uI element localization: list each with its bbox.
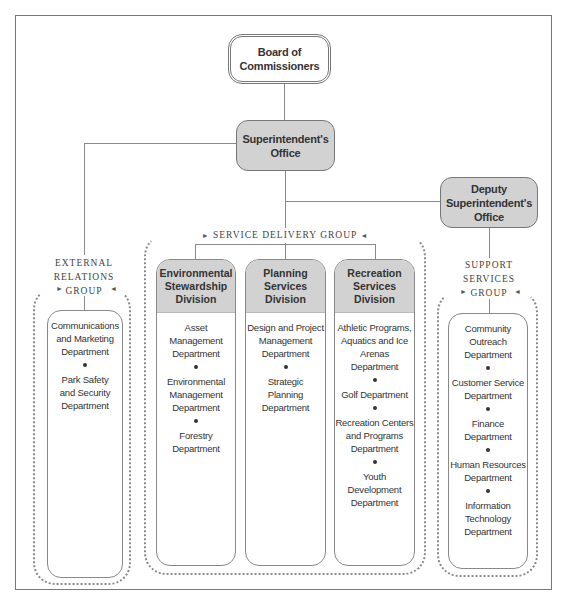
division-title: EnvironmentalStewardshipDivision bbox=[157, 260, 235, 313]
bullet bbox=[284, 365, 288, 369]
bullet bbox=[83, 363, 87, 367]
deputy-label-1: Deputy bbox=[446, 182, 532, 196]
bullet bbox=[486, 366, 490, 370]
support-departments-box: CommunityOutreachDepartment Customer Ser… bbox=[448, 313, 528, 569]
dept-athletic-aquatics-ice: Athletic Programs,Aquatics and IceArenas… bbox=[337, 321, 411, 373]
dept-golf: Golf Department bbox=[341, 388, 408, 401]
bullet bbox=[486, 407, 490, 411]
dept-youth-development: YouthDevelopmentDepartment bbox=[348, 470, 402, 509]
arrow-left-icon: ◄ bbox=[360, 232, 368, 240]
division-recreation-services: RecreationServicesDivision Athletic Prog… bbox=[334, 259, 415, 566]
deputy-label-2: Superintendent's bbox=[446, 196, 532, 210]
dept-communications-marketing: Communicationsand MarketingDepartment bbox=[51, 319, 119, 358]
super-label-1: Superintendent's bbox=[242, 132, 328, 146]
bullet bbox=[194, 419, 198, 423]
dept-environmental-management: EnvironmentalManagementDepartment bbox=[167, 375, 225, 414]
arrow-left-icon: ◄ bbox=[110, 285, 117, 292]
dept-strategic-planning: StrategicPlanningDepartment bbox=[262, 375, 310, 414]
connector-deputy-down bbox=[489, 228, 490, 258]
super-label-2: Office bbox=[242, 146, 328, 160]
dept-community-outreach: CommunityOutreachDepartment bbox=[464, 322, 512, 361]
bullet bbox=[486, 448, 490, 452]
board-label-2: Commissioners bbox=[240, 59, 320, 73]
dept-asset-management: AssetManagementDepartment bbox=[169, 321, 222, 360]
bullet bbox=[373, 460, 377, 464]
dept-design-project-management: Design and ProjectManagementDepartment bbox=[247, 321, 324, 360]
service-delivery-group-label: ► SERVICE DELIVERY GROUP ◄ bbox=[195, 228, 375, 243]
board-label-1: Board of bbox=[240, 45, 320, 59]
division-title: PlanningServicesDivision bbox=[246, 260, 325, 313]
division-environmental-stewardship: EnvironmentalStewardshipDivision AssetMa… bbox=[156, 259, 236, 566]
dept-recreation-centers-programs: Recreation Centersand ProgramsDepartment bbox=[335, 416, 413, 455]
connector-super-down bbox=[285, 171, 286, 228]
division-planning-services: PlanningServicesDivision Design and Proj… bbox=[245, 259, 326, 566]
board-of-commissioners-box: Board of Commissioners bbox=[228, 34, 331, 84]
superintendent-office-box: Superintendent's Office bbox=[236, 120, 335, 171]
dept-forestry: ForestryDepartment bbox=[172, 429, 220, 455]
arrow-right-icon: ► bbox=[202, 232, 210, 240]
connector-board-super bbox=[284, 84, 285, 120]
external-departments-box: Communicationsand MarketingDepartment Pa… bbox=[47, 310, 123, 578]
connector-super-left bbox=[84, 143, 236, 144]
arrow-right-icon: ► bbox=[460, 288, 467, 295]
arrow-right-icon: ► bbox=[56, 285, 63, 292]
division-title: RecreationServicesDivision bbox=[335, 260, 414, 313]
connector-left-down bbox=[84, 143, 85, 255]
deputy-superintendent-office-box: Deputy Superintendent's Office bbox=[440, 177, 538, 228]
dept-finance: Finance Department bbox=[449, 417, 527, 443]
dept-human-resources: Human ResourcesDepartment bbox=[450, 458, 526, 484]
connector-to-deputy bbox=[285, 201, 440, 202]
bullet bbox=[373, 378, 377, 382]
bullet bbox=[486, 489, 490, 493]
dept-customer-service: Customer ServiceDepartment bbox=[452, 376, 524, 402]
bullet bbox=[373, 406, 377, 410]
arrow-left-icon: ◄ bbox=[514, 288, 521, 295]
bullet bbox=[194, 365, 198, 369]
dept-information-technology: InformationTechnologyDepartment bbox=[464, 499, 512, 538]
dept-park-safety-security: Park Safetyand SecurityDepartment bbox=[60, 373, 110, 412]
deputy-label-3: Office bbox=[446, 210, 532, 224]
